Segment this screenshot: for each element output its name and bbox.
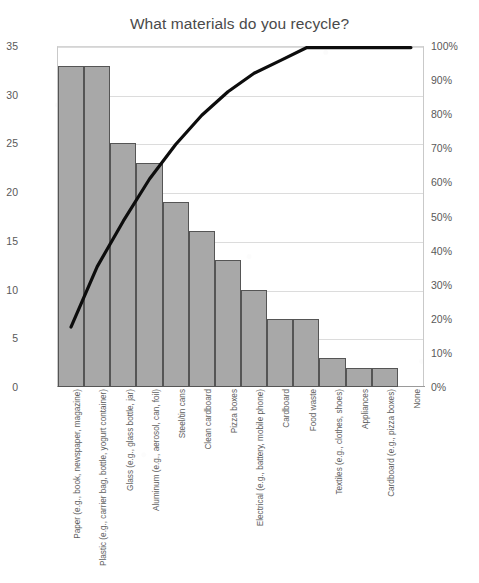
y-axis-left-tick-label: 25 [6, 138, 18, 149]
y-axis-left-tick-label: 35 [6, 41, 18, 52]
bar [136, 163, 162, 387]
x-axis-category-label: Electrical (e.g., battery, mobile phone) [257, 389, 265, 526]
y-axis-left-tick-label: 10 [6, 285, 18, 296]
y-axis-left-tick-label: 0 [12, 382, 18, 393]
y-axis-right-tick-label: 10% [431, 348, 452, 359]
chart-title: What materials do you recycle? [0, 15, 479, 33]
y-axis-left-tick-label: 5 [12, 333, 18, 344]
x-axis-category-label: Pizza boxes [231, 389, 239, 433]
x-axis-category-label: Steel/tin cans [179, 389, 187, 438]
x-axis-category-label: Clean cardboard [205, 389, 213, 450]
y-axis-right-tick-label: 40% [431, 246, 452, 257]
bar [58, 66, 84, 388]
y-axis-right-tick-label: 100% [431, 41, 458, 52]
x-axis-category-label: Glass (e.g., glass bottle, jar) [127, 389, 135, 491]
bar [293, 319, 319, 387]
bar [84, 66, 110, 388]
bar [189, 231, 215, 387]
y-axis-left-tick-label: 30 [6, 90, 18, 101]
x-axis-category-label: Paper (e.g., book, newspaper, magazine) [74, 389, 82, 539]
y-axis-right-tick-label: 50% [431, 212, 452, 223]
y-axis-right-tick-label: 70% [431, 143, 452, 154]
y-axis-left-tick-label: 20 [6, 187, 18, 198]
x-axis-category-labels: Paper (e.g., book, newspaper, magazine)P… [58, 389, 424, 549]
y-axis-right-tick-label: 30% [431, 280, 452, 291]
y-axis-right-tick-label: 60% [431, 177, 452, 188]
x-axis-category-label: Textiles (e.g., clothes, shoes) [336, 389, 344, 495]
x-axis-category-label: Appliances [362, 389, 370, 429]
pareto-chart: What materials do you recycle? 051015202… [0, 0, 479, 583]
bar [241, 290, 267, 387]
bar [346, 368, 372, 387]
y-axis-right-tick-label: 80% [431, 109, 452, 120]
bar [267, 319, 293, 387]
y-axis-right-tick-label: 90% [431, 75, 452, 86]
y-axis-left-tick-label: 15 [6, 236, 18, 247]
bar [110, 143, 136, 387]
y-axis-right-tick-label: 20% [431, 314, 452, 325]
y-axis-right-tick-label: 0% [431, 382, 446, 393]
x-axis-category-label: Food waste [310, 389, 318, 431]
x-axis-category-label: Plastic (e.g., carrier bag, bottle, yogu… [100, 389, 108, 566]
bar [163, 202, 189, 387]
bar [372, 368, 398, 387]
bar [215, 260, 241, 387]
x-axis-category-label: Aluminum (e.g., aerosol, can, foil) [153, 389, 161, 511]
x-axis-category-label: Cardboard (e.g., pizza boxes) [388, 389, 396, 497]
bar-series [58, 46, 424, 387]
bar [319, 358, 345, 387]
x-axis-category-label: None [414, 389, 422, 409]
x-axis-category-label: Cardboard [283, 389, 291, 428]
